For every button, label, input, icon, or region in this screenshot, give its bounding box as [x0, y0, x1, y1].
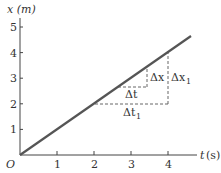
y-tick-label-3: 3 [10, 72, 17, 85]
delta-x1-label: Δx 1 [171, 71, 191, 86]
svg-text:Δt: Δt [123, 106, 136, 119]
svg-text:Δx: Δx [171, 71, 186, 84]
y-axis-label: x (m) [7, 3, 36, 16]
delta-x-label: Δx [150, 71, 165, 84]
y-tick-label-1: 1 [10, 123, 17, 136]
x-tick-label-2: 2 [91, 158, 98, 171]
position-time-chart: 1 2 3 4 5 1 2 3 4 O x (m) t (s) Δx Δt Δx… [0, 0, 221, 173]
svg-text:1: 1 [136, 112, 141, 121]
x-tick-label-1: 1 [54, 158, 61, 171]
svg-text:1: 1 [186, 77, 191, 86]
y-tick-label-4: 4 [10, 47, 17, 60]
x-axis-label-unit: (s) [206, 149, 220, 162]
x-tick-label-3: 3 [128, 158, 135, 171]
delta-t-label: Δt [125, 88, 138, 101]
origin-label: O [6, 158, 15, 171]
x-ticks [57, 151, 168, 155]
y-tick-label-2: 2 [10, 98, 17, 111]
x-axis-label-var: t [200, 149, 205, 162]
y-tick-label-5: 5 [10, 21, 17, 34]
x-tick-label-4: 4 [165, 158, 172, 171]
delta-t1-label: Δt 1 [123, 106, 141, 121]
position-line [20, 36, 191, 155]
